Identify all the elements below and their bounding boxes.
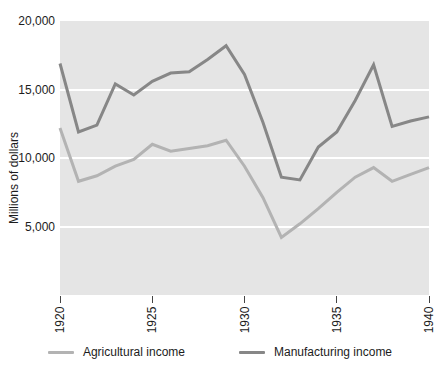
y-axis-title: Millions of dollars <box>7 132 21 224</box>
x-tick-label: 1935 <box>330 307 344 334</box>
x-tick-label: 1925 <box>145 307 159 334</box>
y-tick-label: 5,000 <box>0 220 55 234</box>
legend-label-manufacturing: Manufacturing income <box>274 345 392 359</box>
income-line-chart: Millions of dollars Agricultural income … <box>0 0 440 366</box>
y-tick-label: 10,000 <box>0 151 55 165</box>
x-tick-label: 1920 <box>53 307 67 334</box>
x-tick-mark <box>60 296 61 303</box>
x-tick-mark <box>152 296 153 303</box>
x-tick-mark <box>244 296 245 303</box>
manufacturing-income-line <box>60 46 429 180</box>
x-tick-mark <box>336 296 337 303</box>
legend-label-agricultural: Agricultural income <box>83 345 185 359</box>
agricultural-line-swatch <box>48 351 74 354</box>
agricultural-income-line <box>60 128 429 238</box>
y-tick-label: 15,000 <box>0 83 55 97</box>
x-tick-label: 1930 <box>238 307 252 334</box>
legend-item-manufacturing: Manufacturing income <box>239 345 392 359</box>
x-tick-label: 1940 <box>422 307 436 334</box>
legend: Agricultural income Manufacturing income <box>0 344 440 360</box>
x-tick-mark <box>429 296 430 303</box>
legend-item-agricultural: Agricultural income <box>48 345 185 359</box>
manufacturing-line-swatch <box>239 351 265 354</box>
y-tick-label: 20,000 <box>0 14 55 28</box>
